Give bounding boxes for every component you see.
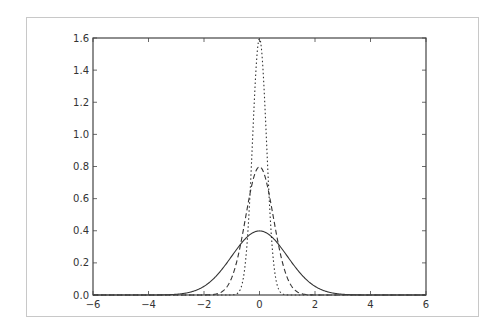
x-tick-label: 4 [367, 299, 373, 310]
ticks-group [93, 38, 426, 295]
line-chart: −6−4−20246 0.00.20.40.60.81.01.21.41.6 [0, 0, 504, 331]
y-tick-label: 0.6 [73, 193, 89, 204]
y-axis-tick-labels: 0.00.20.40.60.81.01.21.41.6 [73, 33, 89, 301]
x-tick-label: 6 [423, 299, 429, 310]
y-tick-label: 0.4 [73, 225, 89, 236]
x-tick-label: 2 [312, 299, 318, 310]
y-tick-label: 1.4 [73, 65, 89, 76]
x-axis-tick-labels: −6−4−20246 [86, 299, 430, 310]
y-tick-label: 1.6 [73, 33, 89, 44]
x-tick-label: −4 [141, 299, 156, 310]
y-tick-label: 1.0 [73, 129, 89, 140]
series-line-solid [93, 231, 426, 295]
curves-group [93, 39, 426, 295]
y-tick-label: 1.2 [73, 97, 89, 108]
series-line-dashdot [93, 39, 426, 295]
x-tick-label: 0 [256, 299, 262, 310]
plot-axes-frame [93, 38, 426, 295]
y-tick-label: 0.2 [73, 257, 89, 268]
x-tick-label: −6 [86, 299, 101, 310]
y-tick-label: 0.8 [73, 161, 89, 172]
x-tick-label: −2 [197, 299, 212, 310]
y-tick-label: 0.0 [73, 290, 89, 301]
